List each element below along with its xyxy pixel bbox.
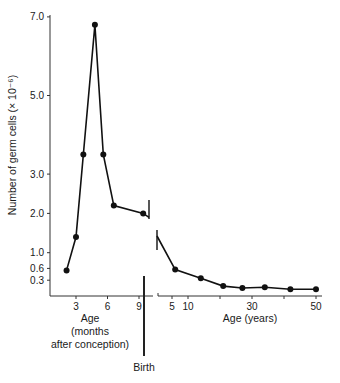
x-tick-label: 9: [136, 301, 142, 312]
prenatal-xlabel-line3: after conception): [51, 338, 129, 350]
data-point: [73, 234, 79, 240]
x-tick-label: 5: [169, 301, 175, 312]
data-point: [220, 283, 226, 289]
y-tick-label: 2.0: [30, 208, 44, 219]
x-tick-label: 6: [105, 301, 111, 312]
prenatal-line: [67, 25, 149, 271]
y-axis-label: Number of germ cells (× 10⁻⁶): [6, 75, 18, 215]
data-point: [100, 151, 106, 157]
prenatal-xlabel-line1: Age: [81, 312, 100, 324]
x-tick-label: 10: [182, 301, 194, 312]
data-point: [262, 284, 268, 290]
data-point: [111, 203, 117, 209]
germ-cell-chart: 0.30.61.02.03.05.07.0 369 5103050 Birth …: [0, 0, 340, 383]
postnatal-line: [157, 236, 316, 289]
x-axis-postnatal: 5103050: [158, 293, 322, 312]
prenatal-xlabel-line2: (months: [71, 325, 109, 337]
data-point: [313, 286, 319, 292]
y-tick-label: 5.0: [30, 90, 44, 101]
data-point: [92, 22, 98, 28]
y-tick-label: 0.3: [30, 275, 44, 286]
data-point: [64, 267, 70, 273]
data-point: [140, 210, 146, 216]
chart-canvas: 0.30.61.02.03.05.07.0 369 5103050 Birth …: [0, 0, 340, 383]
data-point: [287, 286, 293, 292]
x-tick-label: 30: [246, 301, 258, 312]
data-point: [80, 151, 86, 157]
x-tick-label: 3: [73, 301, 79, 312]
y-tick-label: 7.0: [30, 11, 44, 22]
y-tick-label: 0.6: [30, 263, 44, 274]
y-tick-label: 1.0: [30, 247, 44, 258]
x-tick-label: 50: [310, 301, 322, 312]
data-series: [64, 22, 319, 292]
x-axis-prenatal: 369: [50, 296, 153, 312]
data-point: [198, 275, 204, 281]
data-point: [172, 267, 178, 273]
y-axis: 0.30.61.02.03.05.07.0: [30, 11, 50, 296]
birth-label: Birth: [133, 361, 155, 373]
data-point: [239, 285, 245, 291]
y-tick-label: 3.0: [30, 169, 44, 180]
postnatal-xlabel: Age (years): [223, 312, 277, 324]
